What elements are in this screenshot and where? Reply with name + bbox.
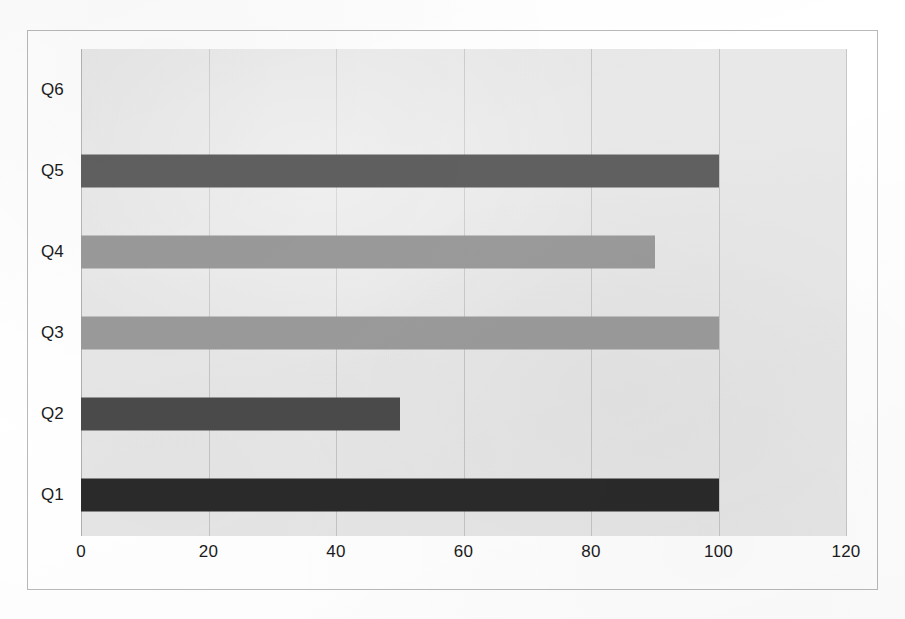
bar-band-q4: Q4 [81, 211, 846, 292]
category-label-q4: Q4 [41, 242, 64, 262]
x-tick-100: 100 [704, 542, 733, 562]
x-tick-20: 20 [199, 542, 218, 562]
chart-frame: Q6Q5Q4Q3Q2Q1 020406080100120 [27, 30, 878, 590]
bar-q4[interactable] [81, 235, 655, 268]
category-label-q2: Q2 [41, 404, 64, 424]
bar-band-q2: Q2 [81, 374, 846, 455]
bar-band-q6: Q6 [81, 49, 846, 130]
category-label-q3: Q3 [41, 323, 64, 343]
category-label-q6: Q6 [41, 80, 64, 100]
x-tick-0: 0 [76, 542, 86, 562]
bar-band-q1: Q1 [81, 455, 846, 536]
x-tick-120: 120 [832, 542, 861, 562]
bar-q3[interactable] [81, 317, 719, 350]
x-tick-80: 80 [581, 542, 600, 562]
plot-area: Q6Q5Q4Q3Q2Q1 [81, 49, 846, 536]
bar-band-q3: Q3 [81, 293, 846, 374]
x-tick-40: 40 [326, 542, 345, 562]
gridline-120 [846, 49, 847, 536]
bar-q5[interactable] [81, 154, 719, 187]
bar-q2[interactable] [81, 398, 400, 431]
category-label-q1: Q1 [41, 485, 64, 505]
bar-q1[interactable] [81, 479, 719, 512]
category-label-q5: Q5 [41, 161, 64, 181]
bar-band-q5: Q5 [81, 130, 846, 211]
x-tick-60: 60 [454, 542, 473, 562]
